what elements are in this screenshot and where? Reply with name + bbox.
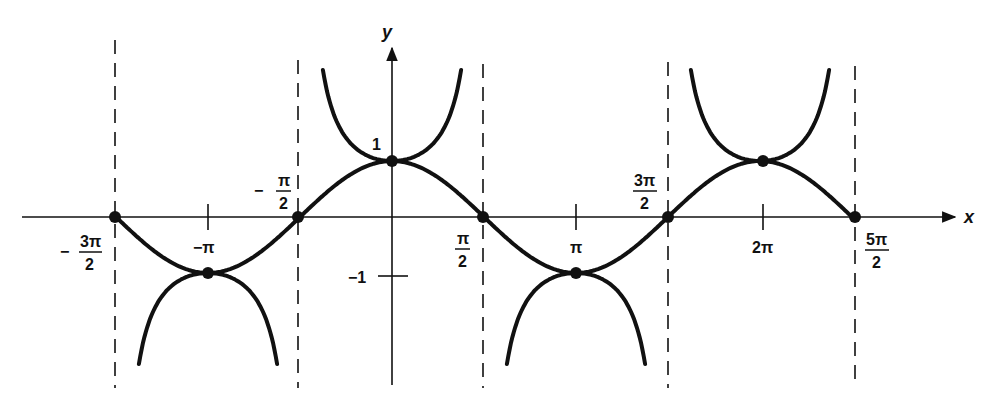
svg-text:2: 2 bbox=[458, 253, 467, 270]
svg-text:5π: 5π bbox=[866, 231, 887, 248]
cos-sec-graph: y x 1 −1 − 3π 2 −π − π 2 π 2 π 3π 2 2π 5… bbox=[0, 0, 991, 409]
x-tick-neg-pi: −π bbox=[193, 239, 215, 256]
svg-text:2: 2 bbox=[640, 195, 649, 212]
svg-text:3π: 3π bbox=[634, 172, 655, 189]
svg-text:2: 2 bbox=[85, 256, 94, 273]
y-tick-neg-1: −1 bbox=[348, 269, 366, 286]
x-tick-neg-pi-2: − π 2 bbox=[254, 172, 291, 212]
svg-text:−: − bbox=[60, 243, 69, 260]
svg-text:2: 2 bbox=[872, 254, 881, 271]
y-tick-1: 1 bbox=[372, 136, 381, 153]
x-tick-5pi-2: 5π 2 bbox=[865, 231, 889, 271]
x-tick-2pi: 2π bbox=[752, 239, 773, 256]
x-tick-neg-3pi-2: − 3π 2 bbox=[60, 233, 102, 273]
svg-text:π: π bbox=[278, 172, 290, 189]
x-tick-pi-2: π 2 bbox=[455, 230, 470, 270]
y-axis-label: y bbox=[381, 22, 393, 42]
x-tick-3pi-2: 3π 2 bbox=[633, 172, 657, 212]
svg-text:2: 2 bbox=[279, 195, 288, 212]
x-tick-pi: π bbox=[570, 239, 582, 256]
x-axis-label: x bbox=[963, 207, 975, 227]
svg-text:3π: 3π bbox=[80, 233, 101, 250]
svg-text:π: π bbox=[457, 230, 469, 247]
svg-text:−: − bbox=[254, 182, 263, 199]
